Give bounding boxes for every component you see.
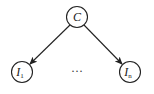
node-c: C [67,7,88,28]
ellipsis: ··· [71,64,83,78]
edge-c-to-i1 [30,25,70,64]
graphical-model-diagram: C I1 ··· In [0,0,154,94]
edge-c-to-in [84,25,122,64]
node-c-label: C [73,10,82,24]
node-in: In [120,62,141,83]
node-i1: I1 [12,62,33,83]
